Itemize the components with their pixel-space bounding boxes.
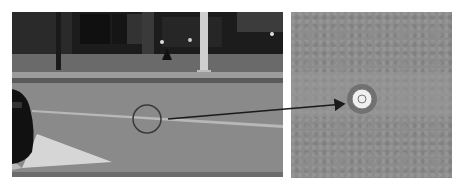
highlight-circle <box>133 105 161 133</box>
annotation-overlay <box>0 0 464 189</box>
pointer-arrow <box>168 104 344 119</box>
